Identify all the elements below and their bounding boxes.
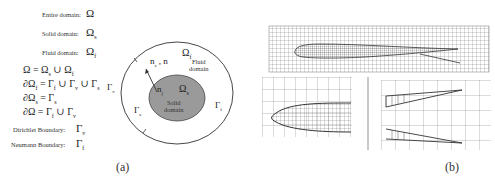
mesh-figures: [0, 0, 495, 186]
caption-b: (b): [445, 160, 459, 175]
